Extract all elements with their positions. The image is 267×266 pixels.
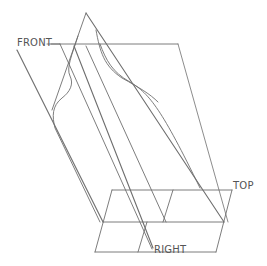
top-label[interactable]: TOP <box>233 181 254 191</box>
top-plane[interactable] <box>95 190 232 252</box>
right-plane[interactable] <box>52 13 224 248</box>
front-label[interactable]: FRONT <box>17 38 52 48</box>
right-label[interactable]: RIGHT <box>154 245 186 255</box>
front-plane[interactable] <box>17 44 228 249</box>
